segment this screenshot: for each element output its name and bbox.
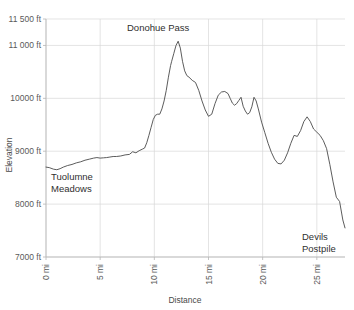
y-axis-title: Elevation: [4, 137, 14, 172]
elevation-line: [46, 41, 345, 228]
x-tick-label: 25 mi: [312, 264, 322, 285]
x-tick-label: 10 mi: [149, 264, 159, 285]
y-tick-label: 11 500 ft: [9, 14, 42, 24]
y-tick-label: 8000 ft: [15, 199, 42, 209]
tuolumne-meadows-label: TuolumneMeadows: [51, 171, 93, 194]
donohue-pass-label: Donohue Pass: [127, 22, 190, 33]
data-series-group: [46, 41, 345, 228]
chart-canvas: 11 500 ft11 000 ft10000 ft9000 ft8000 ft…: [0, 0, 354, 310]
axis-lines-group: [46, 19, 345, 257]
y-tick-label: 11 000 ft: [9, 40, 42, 50]
devils-postpile-label: DevilsPostpile: [302, 231, 336, 254]
y-tick-label: 7000 ft: [15, 252, 42, 262]
x-axis-tick-labels: 0 mi5 mi10 mi15 mi20 mi25 mi: [41, 264, 322, 285]
x-axis-title: Distance: [168, 295, 201, 305]
gridlines-group: [46, 19, 345, 257]
y-tick-label: 10000 ft: [10, 93, 41, 103]
tick-marks-group: [43, 19, 317, 260]
elevation-profile-chart: 11 500 ft11 000 ft10000 ft9000 ft8000 ft…: [0, 0, 354, 310]
x-tick-label: 20 mi: [258, 264, 268, 285]
x-tick-label: 0 mi: [41, 264, 51, 280]
x-tick-label: 15 mi: [204, 264, 214, 285]
y-tick-label: 9000 ft: [15, 146, 42, 156]
x-tick-label: 5 mi: [95, 264, 105, 280]
